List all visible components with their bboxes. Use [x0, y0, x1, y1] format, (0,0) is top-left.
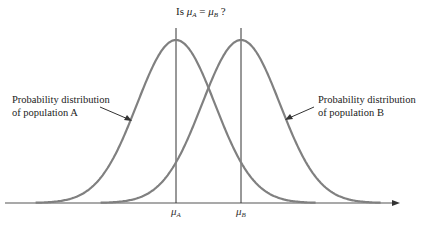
- label-population-b: Probability distribution of population B: [318, 93, 416, 119]
- tick-label-mu-b: μB: [236, 205, 246, 219]
- label-b-line1: Probability distribution: [318, 93, 416, 106]
- label-b-line2: of population B: [318, 106, 416, 119]
- title-prefix: Is: [176, 5, 187, 17]
- title-suffix: ?: [218, 5, 226, 17]
- title-equals: =: [197, 5, 209, 17]
- tick-label-mu-a: μA: [171, 205, 181, 219]
- x-axis-arrowhead-icon: [392, 200, 400, 206]
- diagram-title: Is μA = μB ?: [176, 5, 226, 19]
- pointer-arrow-b: [289, 107, 314, 118]
- label-population-a: Probability distribution of population A: [12, 93, 110, 119]
- label-a-line2: of population A: [12, 106, 110, 119]
- label-a-line1: Probability distribution: [12, 93, 110, 106]
- tick-a-sub: A: [177, 211, 181, 219]
- tick-b-sub: B: [242, 211, 246, 219]
